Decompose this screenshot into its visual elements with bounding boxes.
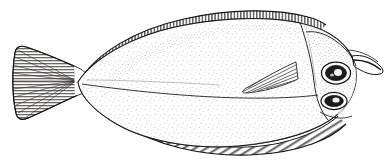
lower-eye-pupil-highlight: [332, 97, 339, 102]
upper-eye-pupil-highlight: [334, 69, 342, 76]
illustration-canvas: [0, 0, 391, 168]
caudal-fin: [10, 42, 82, 124]
lower-eye: [321, 92, 347, 109]
flatfish-illustration: [0, 0, 391, 168]
upper-eye-secondary-highlight: [330, 73, 334, 76]
upper-eye: [322, 62, 351, 84]
